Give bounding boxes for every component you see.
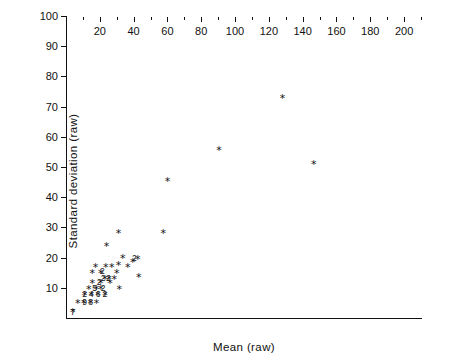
x-axis-tick — [100, 17, 101, 22]
y-axis-tick-label: 10 — [46, 282, 58, 294]
x-axis-tick — [370, 17, 371, 22]
y-axis-tick — [61, 227, 66, 228]
y-axis-tick — [61, 76, 66, 77]
x-axis-tick — [134, 17, 135, 22]
x-axis-minor-tick — [286, 17, 287, 20]
x-axis-minor-tick — [320, 17, 321, 20]
x-axis-title: Mean (raw) — [66, 341, 422, 353]
x-axis-minor-tick — [218, 17, 219, 20]
x-axis-tick-label: 200 — [395, 25, 413, 37]
x-axis-tick-label: 20 — [94, 25, 106, 37]
overplot-count-text: 9 — [82, 298, 87, 307]
y-axis-tick — [61, 16, 66, 17]
y-axis-tick — [61, 197, 66, 198]
overplot-count-text: 8 — [88, 298, 93, 307]
y-axis-tick-label: 60 — [46, 131, 58, 143]
data-point-marker: * — [125, 261, 131, 272]
y-axis-tick-label: 40 — [46, 191, 58, 203]
x-axis-tick-label: 60 — [161, 25, 173, 37]
data-point-marker: * — [280, 92, 286, 103]
y-axis-tick-label: 20 — [46, 252, 58, 264]
y-axis-tick — [61, 46, 66, 47]
x-axis-tick-label: 180 — [361, 25, 379, 37]
x-axis-tick — [303, 17, 304, 22]
y-axis-tick-label: 90 — [46, 40, 58, 52]
y-axis-tick — [61, 167, 66, 168]
x-axis-tick-label: 80 — [195, 25, 207, 37]
x-axis-tick-label: 160 — [327, 25, 345, 37]
y-axis-tick — [61, 288, 66, 289]
x-axis-tick — [404, 17, 405, 22]
x-axis-tick — [167, 17, 168, 22]
data-point-marker: * — [160, 228, 166, 239]
overplot-count-text: 2 — [103, 290, 108, 299]
data-point-marker: * — [117, 284, 123, 295]
x-axis-minor-tick — [252, 17, 253, 20]
x-axis-tick-label: 140 — [293, 25, 311, 37]
x-axis-minor-tick — [353, 17, 354, 20]
data-point-marker: * — [311, 158, 317, 169]
x-axis-tick — [336, 17, 337, 22]
x-axis-tick — [235, 17, 236, 22]
y-axis-tick — [61, 137, 66, 138]
x-axis-tick — [201, 17, 202, 22]
x-axis-minor-tick — [184, 17, 185, 20]
y-axis-tick-label: 70 — [46, 101, 58, 113]
x-axis-line — [66, 318, 422, 319]
x-axis-minor-tick — [387, 17, 388, 20]
data-point-marker: * — [104, 240, 110, 251]
x-axis-tick-label: 100 — [226, 25, 244, 37]
y-axis-tick — [61, 258, 66, 259]
overplot-count-text: 2 — [132, 254, 137, 263]
x-axis-tick — [269, 17, 270, 22]
x-axis-minor-tick — [83, 17, 84, 20]
scatter-plot-figure: Standard deviation (raw) Mean (raw) 1020… — [0, 0, 449, 362]
x-axis-minor-tick — [421, 17, 422, 20]
x-axis-tick-label: 120 — [260, 25, 278, 37]
overplot-count-text: 6 — [96, 290, 101, 299]
data-point-marker: * — [136, 272, 142, 283]
data-point-marker: * — [165, 175, 171, 186]
y-axis-tick-label: 80 — [46, 70, 58, 82]
x-axis-minor-tick — [117, 17, 118, 20]
y-axis-tick-label: 30 — [46, 221, 58, 233]
plot-area: 1020304050607080901002040608010012014016… — [66, 16, 421, 318]
y-axis-tick — [61, 107, 66, 108]
y-axis-tick-label: 50 — [46, 161, 58, 173]
data-point-marker: * — [216, 145, 222, 156]
data-point-marker: * — [116, 228, 122, 239]
x-axis-tick-label: 40 — [127, 25, 139, 37]
overplot-count-text: 2 — [106, 273, 111, 282]
x-axis-minor-tick — [151, 17, 152, 20]
data-point-marker: * — [94, 297, 100, 308]
overplot-count-text: 7 — [70, 308, 75, 317]
y-axis-tick-label: 100 — [40, 10, 58, 22]
